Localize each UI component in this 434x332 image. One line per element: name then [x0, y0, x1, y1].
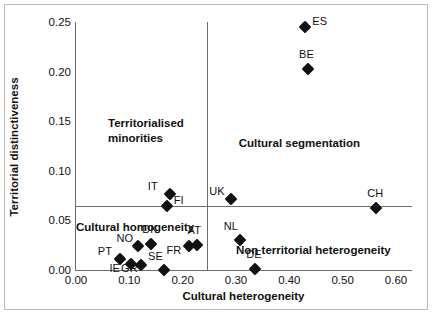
- data-point-marker: [299, 21, 312, 34]
- y-axis-tick-label: 0.15: [49, 115, 71, 127]
- y-axis-tick-label: 0.05: [49, 214, 71, 226]
- x-axis-tick-label: 0.20: [171, 274, 193, 286]
- data-point-marker: [302, 62, 315, 75]
- data-point-label: NO: [116, 232, 133, 244]
- data-point-label: PT: [98, 245, 112, 257]
- data-point-marker: [132, 240, 145, 253]
- data-point-label: BE: [299, 48, 314, 60]
- data-point-label: NL: [224, 220, 238, 232]
- plot-area: 0.000.050.100.150.200.250.000.100.200.30…: [75, 22, 412, 271]
- quadrant-label-line: minorities: [108, 131, 184, 145]
- data-point-marker: [225, 192, 238, 205]
- data-point-label: FI: [174, 194, 184, 206]
- data-point-label: IE: [109, 262, 120, 274]
- data-point-marker: [160, 199, 173, 212]
- y-axis-tick-label: 0.25: [49, 16, 71, 28]
- data-point-label: IT: [148, 180, 158, 192]
- y-axis-title: Territorial distinctiveness: [6, 22, 22, 271]
- y-axis-tick-label: 0.10: [49, 165, 71, 177]
- data-point-label: CH: [367, 187, 383, 199]
- data-point-label: DK: [142, 223, 157, 235]
- x-axis-tick-label: 0.50: [331, 274, 353, 286]
- data-point-label: ES: [312, 15, 327, 27]
- x-axis-tick-label: 0.10: [118, 274, 140, 286]
- horizontal-reference-line: [76, 206, 412, 207]
- data-point-label: DE: [246, 248, 261, 260]
- scatter-plot-figure: Territorial distinctiveness Cultural het…: [0, 0, 434, 332]
- data-point-label: GR: [121, 262, 138, 274]
- data-point-label: SE: [148, 250, 163, 262]
- x-axis-tick-label: 0.40: [278, 274, 300, 286]
- quadrant-label-territorialised-minorities: Territorialisedminorities: [108, 116, 184, 145]
- quadrant-label-cultural-homogeneity: Cultural homogeneity: [76, 220, 194, 234]
- y-axis-tick-label: 0.20: [49, 66, 71, 78]
- x-axis-tick-label: 0.30: [225, 274, 247, 286]
- data-point-marker: [145, 238, 158, 251]
- quadrant-label-cultural-segmentation: Cultural segmentation: [239, 136, 360, 150]
- x-axis-tick-label: 0.60: [385, 274, 407, 286]
- x-axis-title: Cultural heterogeneity: [75, 290, 412, 302]
- quadrant-label-line: Territorialised: [108, 116, 184, 130]
- y-axis-title-text: Territorial distinctiveness: [8, 77, 20, 216]
- vertical-reference-line: [207, 22, 208, 270]
- data-point-label: AT: [188, 224, 201, 236]
- data-point-marker: [370, 202, 383, 215]
- data-point-label: UK: [209, 185, 224, 197]
- x-axis-tick-label: 0.00: [65, 274, 87, 286]
- data-point-label: FR: [167, 244, 182, 256]
